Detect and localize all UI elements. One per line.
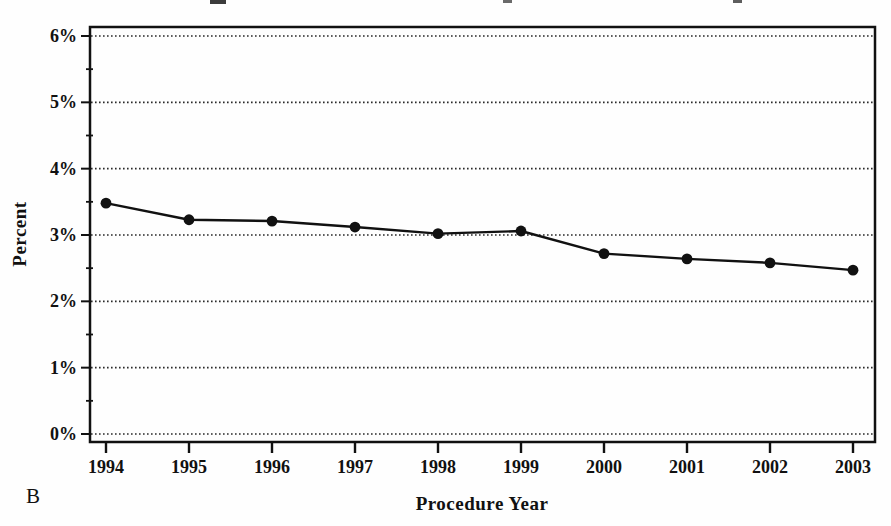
x-tick-label: 1994	[88, 457, 124, 477]
data-point-marker	[267, 216, 278, 227]
x-tick-label: 1998	[420, 457, 456, 477]
y-tick-label: 0%	[50, 424, 77, 444]
data-point-marker	[682, 253, 693, 264]
x-tick-label: 2000	[586, 457, 622, 477]
panel-label: B	[26, 484, 40, 509]
x-tick-label: 2001	[669, 457, 705, 477]
figure-panel: 0%1%2%3%4%5%6%19941995199619971998199920…	[0, 0, 891, 526]
y-tick-label: 6%	[50, 26, 77, 46]
x-tick-label: 1997	[337, 457, 373, 477]
x-tick-label: 1999	[503, 457, 539, 477]
y-tick-label: 1%	[50, 358, 77, 378]
series-line	[106, 203, 853, 270]
y-tick-label: 4%	[50, 159, 77, 179]
data-point-marker	[101, 198, 112, 209]
data-point-marker	[765, 257, 776, 268]
x-tick-label: 2002	[752, 457, 788, 477]
data-point-marker	[433, 228, 444, 239]
y-tick-label: 2%	[50, 291, 77, 311]
x-tick-label: 2003	[835, 457, 871, 477]
x-tick-label: 1995	[171, 457, 207, 477]
x-axis-title: Procedure Year	[332, 493, 632, 515]
data-point-marker	[184, 214, 195, 225]
line-chart: 0%1%2%3%4%5%6%19941995199619971998199920…	[0, 0, 891, 526]
y-tick-label: 3%	[50, 225, 77, 245]
data-point-marker	[516, 226, 527, 237]
data-point-marker	[350, 222, 361, 233]
y-tick-label: 5%	[50, 92, 77, 112]
x-tick-label: 1996	[254, 457, 290, 477]
data-point-marker	[599, 248, 610, 259]
y-axis-title: Percent	[9, 158, 31, 310]
data-point-marker	[848, 265, 859, 276]
